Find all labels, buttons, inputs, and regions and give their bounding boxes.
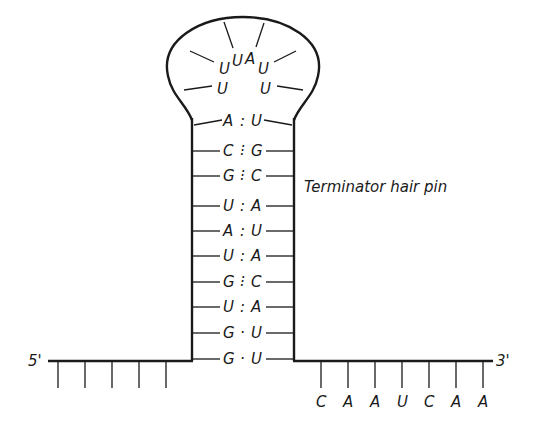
stem-pair-left: A bbox=[222, 112, 233, 130]
stem-pair-left: U bbox=[223, 298, 234, 316]
loop-base: U bbox=[219, 60, 230, 78]
stem-pair-right: A bbox=[250, 298, 261, 316]
stem-pair-right: U bbox=[251, 324, 262, 342]
stem-pair-right: U bbox=[251, 112, 262, 130]
terminator-hairpin-diagram: U U A U U U C ⁝ G G ⁝ C U : A A : U U : … bbox=[0, 0, 543, 428]
stem-pair-bond: ⁝ bbox=[240, 273, 245, 291]
downstream-base: C bbox=[316, 393, 327, 411]
terminator-label: Terminator hair pin bbox=[304, 178, 447, 196]
loop-spokes bbox=[184, 22, 303, 125]
stem-pair-left: A bbox=[222, 222, 233, 240]
three-prime-label: 3' bbox=[496, 352, 510, 370]
loop-base: U bbox=[260, 80, 271, 98]
loop-base: U bbox=[217, 80, 228, 98]
stem-pair-right: A bbox=[250, 197, 261, 215]
stem-pair-left: G bbox=[223, 167, 235, 185]
stem-pair-right: C bbox=[251, 273, 262, 291]
downstream-base: U bbox=[397, 393, 408, 411]
stem-pair-bond: : bbox=[240, 247, 245, 265]
loop-base: A bbox=[244, 50, 255, 68]
stem-pair-bond: : bbox=[240, 112, 245, 130]
stem-pair-bond: : bbox=[240, 222, 245, 240]
downstream-base: A bbox=[369, 393, 380, 411]
stem-pair-bond: · bbox=[240, 350, 245, 368]
stem-pair-left: G bbox=[223, 273, 235, 291]
stem-pair-left: C bbox=[223, 142, 234, 160]
stem-pair-left: G bbox=[223, 350, 235, 368]
stem-pair-left: U bbox=[223, 247, 234, 265]
downstream-base: A bbox=[450, 393, 461, 411]
downstream-bases: C A A U C A A bbox=[316, 361, 488, 411]
stem-pair-bond: ⁝ bbox=[240, 167, 245, 185]
downstream-base: C bbox=[424, 393, 435, 411]
stem-pair-left: U bbox=[223, 197, 234, 215]
five-prime-label: 5' bbox=[28, 352, 42, 370]
downstream-base: A bbox=[342, 393, 353, 411]
loop-bases: U U A U U U bbox=[217, 50, 271, 98]
stem-pair-bond: : bbox=[240, 197, 245, 215]
stem-pair-right: C bbox=[251, 167, 262, 185]
stem-pair-left: G bbox=[223, 324, 235, 342]
stem-pair-right: U bbox=[251, 222, 262, 240]
stem-base-pairs: C ⁝ G G ⁝ C U : A A : U U : A G ⁝ C U : … bbox=[192, 112, 294, 368]
downstream-base: A bbox=[477, 393, 488, 411]
stem-pair-bond: ⁝ bbox=[240, 142, 245, 160]
upstream-ticks bbox=[58, 361, 166, 388]
stem-pair-bond: : bbox=[240, 298, 245, 316]
stem-pair-right: A bbox=[250, 247, 261, 265]
stem-pair-right: U bbox=[251, 350, 262, 368]
loop-base: U bbox=[258, 60, 269, 78]
stem-pair-bond: · bbox=[240, 324, 245, 342]
loop-base: U bbox=[232, 52, 243, 70]
stem-pair-right: G bbox=[251, 142, 263, 160]
hairpin-loop-outline bbox=[167, 17, 319, 120]
